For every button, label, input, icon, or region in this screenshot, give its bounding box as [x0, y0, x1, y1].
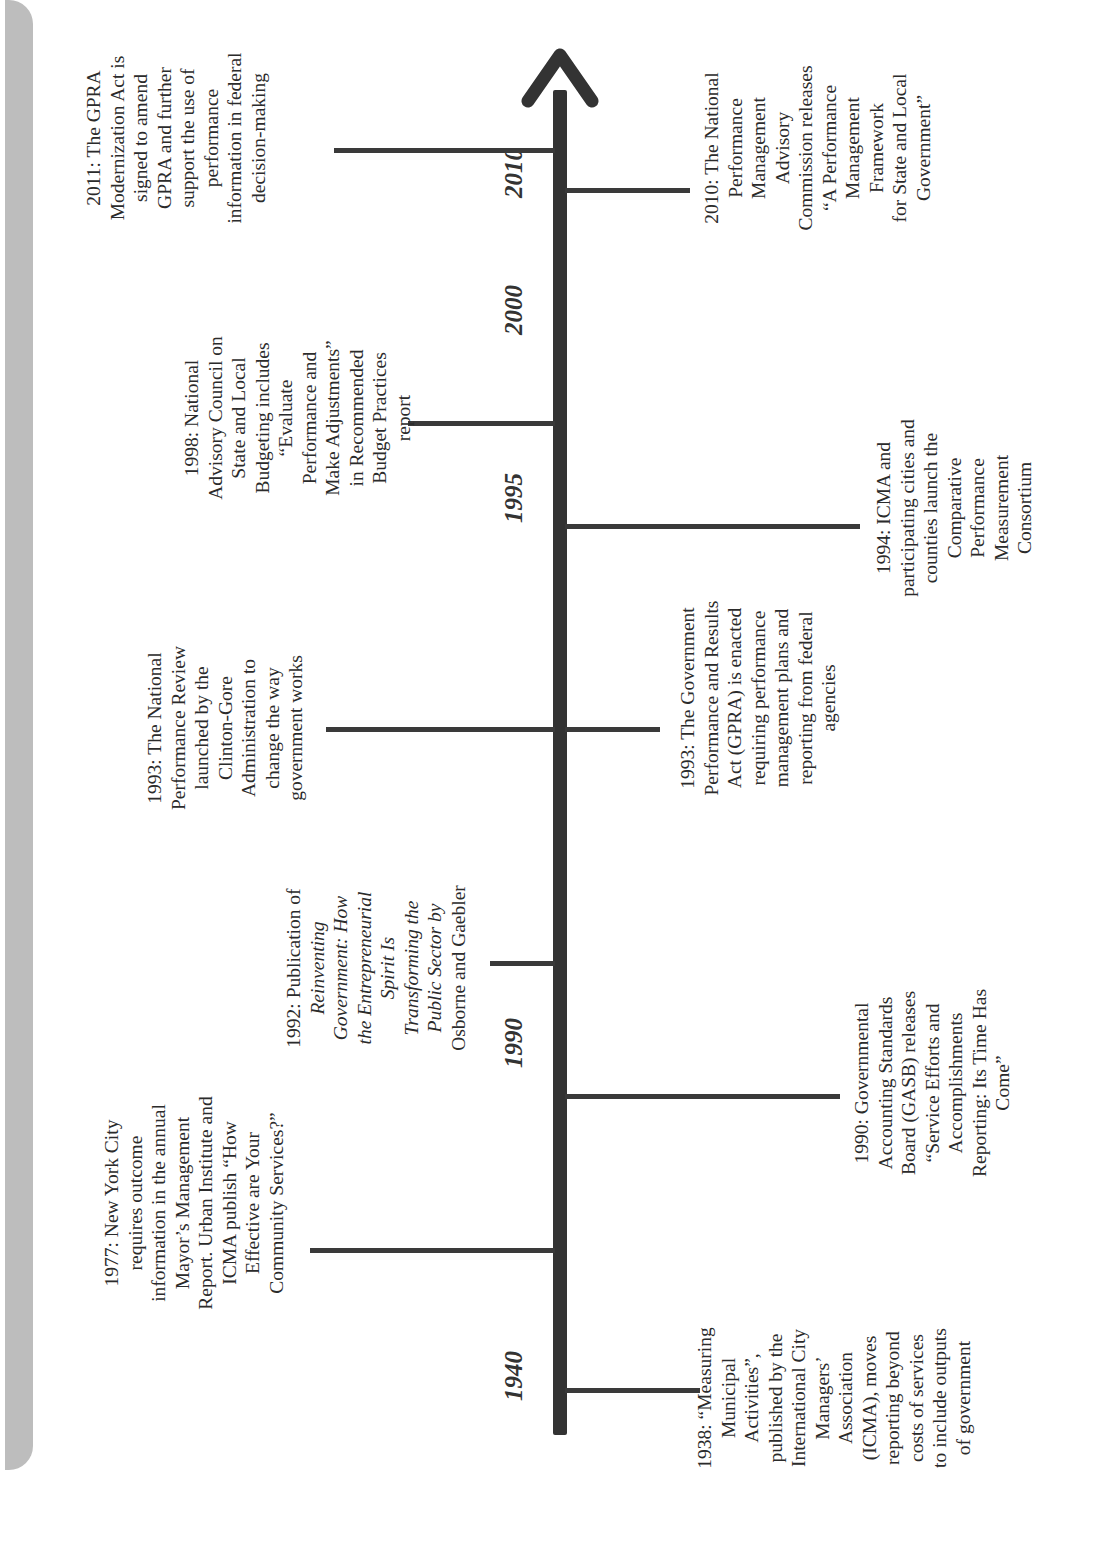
event-2011: 2011: The GPRA Modernization Act is sign…	[82, 8, 270, 268]
connector-1993-gpra	[565, 727, 660, 732]
event-1990: 1990: Governmental Accounting Standards …	[850, 933, 1015, 1233]
timeline-axis	[553, 90, 567, 1435]
year-label-1995: 1995	[500, 453, 528, 543]
connector-1993-npr	[326, 727, 555, 732]
event-1977: 1977: New York City requires outcome inf…	[100, 1053, 288, 1353]
event-2010: 2010: The National Performance Managemen…	[700, 23, 935, 273]
event-1992: 1992: Publication of Reinventing Governm…	[282, 838, 470, 1098]
connector-1994	[565, 524, 860, 529]
year-label-2000: 2000	[500, 265, 528, 355]
event-1998: 1998: National Advisory Council on State…	[180, 308, 415, 528]
connector-2011	[334, 148, 555, 153]
year-label-1940: 1940	[500, 1331, 528, 1421]
connector-1998	[408, 421, 555, 426]
connector-2010	[565, 188, 690, 193]
event-1993-npr: 1993: The National Performance Review la…	[143, 608, 308, 848]
connector-1990	[565, 1094, 840, 1099]
event-1994: 1994: ICMA and participating cities and …	[872, 378, 1037, 638]
year-label-2010: 2010	[500, 128, 528, 218]
event-1993-gpra: 1993: The Government Performance and Res…	[676, 548, 841, 848]
year-label-1990: 1990	[500, 998, 528, 1088]
connector-1992	[490, 961, 555, 966]
connector-1977	[310, 1248, 555, 1253]
timeline-canvas: 1940 1990 1995 2000 2010 1977: New York …	[0, 0, 1099, 1543]
decorative-sidebar-band	[5, 0, 33, 1470]
event-1938: 1938: “Measuring Municipal Activities”, …	[693, 1273, 975, 1523]
arrow-right-icon	[520, 33, 600, 113]
connector-1938	[565, 1388, 700, 1393]
